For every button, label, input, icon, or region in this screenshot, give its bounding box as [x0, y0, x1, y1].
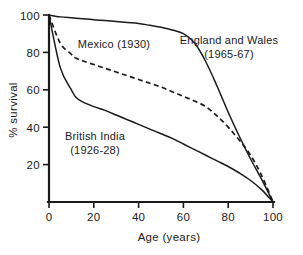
y-tick-label-100: 100 — [20, 10, 40, 22]
x-tick-label-0: 0 — [46, 211, 53, 223]
y-tick-label-20: 20 — [27, 159, 40, 171]
series-label-england: England and Wales — [180, 34, 279, 46]
survivorship-curve-chart: 100 80 60 40 20 0 20 40 60 80 100 Age (y… — [0, 0, 303, 255]
x-tick-label-80: 80 — [221, 211, 234, 223]
x-tick-label-40: 40 — [132, 211, 145, 223]
y-tick-label-80: 80 — [27, 47, 40, 59]
x-tick-label-60: 60 — [177, 211, 190, 223]
x-tick-label-20: 20 — [87, 211, 100, 223]
series-label-england-years: (1965-67) — [204, 48, 254, 60]
x-tick-label-100: 100 — [263, 211, 283, 223]
series-label-india: British India — [65, 130, 126, 142]
y-tick-label-40: 40 — [27, 122, 40, 134]
y-tick-label-60: 60 — [27, 84, 40, 96]
x-axis-title: Age (years) — [138, 231, 201, 243]
series-label-india-years: (1926-28) — [70, 144, 120, 156]
series-label-mexico: Mexico (1930) — [78, 38, 150, 50]
y-axis-title: % survival — [7, 82, 19, 137]
chart-svg: 100 80 60 40 20 0 20 40 60 80 100 Age (y… — [0, 0, 303, 255]
